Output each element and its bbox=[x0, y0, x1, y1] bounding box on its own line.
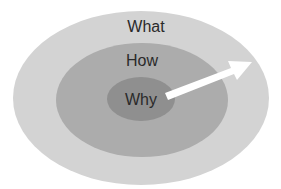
ring-label-how: How bbox=[126, 52, 158, 69]
ring-label-what: What bbox=[127, 18, 165, 35]
golden-circle-diagram: What How Why bbox=[0, 0, 281, 189]
ring-label-why: Why bbox=[125, 91, 157, 108]
